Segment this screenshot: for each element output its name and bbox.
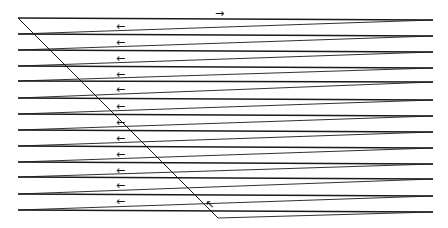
forward-segment [18,177,433,179]
forward-segment [18,34,433,36]
return-segment [18,36,433,50]
forward-segment [18,194,433,196]
forward-segment [18,114,433,116]
return-segment [18,52,433,66]
forward-segment [18,146,433,148]
return-segment [18,148,433,162]
arrow-left-icon: ← [116,37,125,48]
bottom-segment [218,212,433,218]
return-segment [18,179,433,194]
forward-segment [18,98,433,100]
arrow-left-icon: ← [116,117,125,128]
forward-segment [18,130,433,132]
arrow-left-icon: ← [116,180,125,191]
return-segment [18,68,433,81]
return-segment [18,100,433,114]
forward-segment [18,81,433,82]
return-segment [18,116,433,130]
arrow-left-icon: ← [116,84,125,95]
arrow-up-left-icon: ↖ [205,199,214,210]
forward-segment [18,162,433,164]
forward-segment [18,210,433,212]
return-segment [18,132,433,146]
arrow-left-icon: ← [116,133,125,144]
arrow-left-icon: ← [116,69,125,80]
forward-segment [18,18,433,20]
arrow-left-icon: ← [116,196,125,207]
forward-segment [18,66,433,68]
arrow-left-icon: ← [116,149,125,160]
return-segment [18,164,433,177]
return-segment [18,196,433,210]
return-segment [18,82,433,98]
arrow-left-icon: ← [116,165,125,176]
forward-segment [18,50,433,52]
return-segment [18,20,433,34]
path-lines [18,18,433,218]
arrow-left-icon: ← [116,21,125,32]
arrow-left-icon: ← [116,101,125,112]
arrow-right-icon: → [215,8,224,19]
arrow-left-icon: ← [116,53,125,64]
zigzag-diagram [0,0,448,228]
